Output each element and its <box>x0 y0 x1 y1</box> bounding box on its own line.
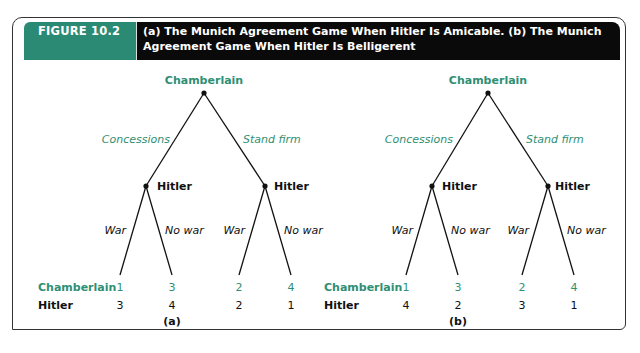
second-player-a-right: Hitler <box>274 180 309 193</box>
payoff-chamberlain-b-1: 1 <box>403 281 410 294</box>
action-war-a-right: War <box>223 224 246 237</box>
payoff-chamberlain-a-3: 2 <box>236 281 243 294</box>
hitler-node-a-left <box>143 183 148 188</box>
root-node-b <box>485 90 490 95</box>
action-war-b-left: War <box>391 224 414 237</box>
row-label-chamberlain-b: Chamberlain <box>324 281 402 294</box>
action-stand-firm-b: Stand firm <box>526 133 584 146</box>
root-player-a: Chamberlain <box>165 74 243 87</box>
payoff-hitler-a-4: 1 <box>288 299 295 312</box>
payoff-chamberlain-b-3: 2 <box>519 281 526 294</box>
payoff-chamberlain-b-4: 4 <box>571 281 578 294</box>
game-trees: Chamberlain Concessions Stand firm Hitle… <box>0 0 640 353</box>
action-stand-firm-a: Stand firm <box>243 133 301 146</box>
caption-b: (b) <box>449 315 467 328</box>
second-player-b-right: Hitler <box>555 180 590 193</box>
row-label-hitler-b: Hitler <box>324 299 359 312</box>
root-node-a <box>201 90 206 95</box>
payoff-hitler-a-1: 3 <box>117 299 124 312</box>
action-concessions-a: Concessions <box>102 133 170 146</box>
action-nowar-b-right: No war <box>567 224 607 237</box>
payoff-chamberlain-a-2: 3 <box>169 281 176 294</box>
root-player-b: Chamberlain <box>449 74 527 87</box>
payoff-chamberlain-b-2: 3 <box>455 281 462 294</box>
action-concessions-b: Concessions <box>385 133 453 146</box>
action-nowar-b-left: No war <box>451 224 491 237</box>
payoff-hitler-a-2: 4 <box>169 299 176 312</box>
row-label-chamberlain-a: Chamberlain <box>38 281 116 294</box>
second-player-b-left: Hitler <box>442 180 477 193</box>
row-label-hitler-a: Hitler <box>38 299 73 312</box>
action-war-a-left: War <box>104 224 127 237</box>
hitler-node-b-left <box>429 183 434 188</box>
hitler-node-b-right <box>545 183 550 188</box>
payoff-hitler-b-4: 1 <box>571 299 578 312</box>
hitler-node-a-right <box>262 183 267 188</box>
action-nowar-a-left: No war <box>165 224 205 237</box>
payoff-chamberlain-a-4: 4 <box>288 281 295 294</box>
payoff-hitler-b-1: 4 <box>403 299 410 312</box>
action-nowar-a-right: No war <box>284 224 324 237</box>
payoff-hitler-b-2: 2 <box>455 299 462 312</box>
payoff-hitler-b-3: 3 <box>519 299 526 312</box>
action-war-b-right: War <box>507 224 530 237</box>
payoff-chamberlain-a-1: 1 <box>117 281 124 294</box>
payoff-hitler-a-3: 2 <box>236 299 243 312</box>
caption-a: (a) <box>163 315 180 328</box>
second-player-a-left: Hitler <box>157 180 192 193</box>
